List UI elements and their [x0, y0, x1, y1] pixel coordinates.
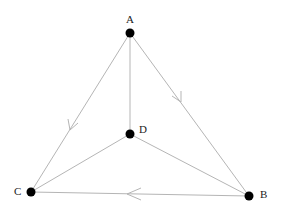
edge-d-c — [31, 134, 130, 192]
graph-diagram: A B C D — [0, 0, 282, 211]
label-b: B — [260, 188, 267, 200]
label-a: A — [126, 13, 134, 25]
label-d: D — [139, 123, 147, 135]
edge-a-c — [31, 33, 130, 192]
node-d — [126, 130, 135, 139]
node-b — [245, 192, 254, 201]
label-c: C — [14, 185, 21, 197]
edge-b-c — [31, 192, 249, 196]
edge-d-b — [130, 134, 249, 196]
node-a — [126, 29, 135, 38]
edge-a-b — [130, 33, 249, 196]
node-c — [27, 188, 36, 197]
